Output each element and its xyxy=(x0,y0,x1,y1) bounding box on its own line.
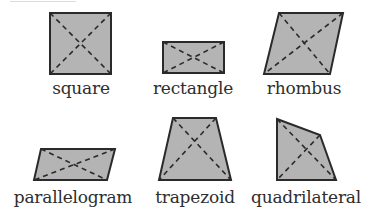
quadrilateral-shape xyxy=(277,119,336,180)
quadrilateral-label: quadrilateral xyxy=(251,189,361,206)
rhombus-shape xyxy=(264,13,343,74)
trapezoid-outline xyxy=(159,118,231,180)
square-shape xyxy=(50,13,111,74)
trapezoid-label: trapezoid xyxy=(155,189,235,206)
shapes-diagram xyxy=(0,0,373,218)
rectangle-label: rectangle xyxy=(153,80,233,97)
rectangle-shape xyxy=(163,42,224,73)
trapezoid-shape xyxy=(159,118,231,180)
parallelogram-shape xyxy=(34,149,115,180)
parallelogram-label: parallelogram xyxy=(14,189,133,206)
square-label: square xyxy=(52,80,110,97)
rhombus-label: rhombus xyxy=(267,80,342,97)
